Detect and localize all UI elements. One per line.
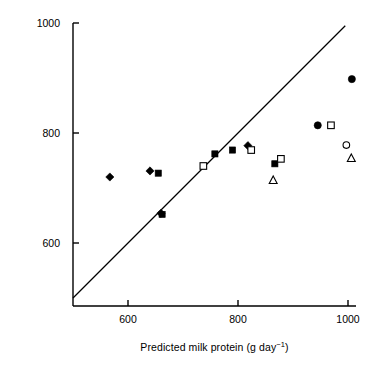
data-point-open-square xyxy=(200,163,207,170)
series-filled-circle xyxy=(314,76,355,129)
scatter-plot: Observed milk protein (g day−1) Predicte… xyxy=(0,0,380,366)
data-point-filled-square xyxy=(212,151,218,157)
data-point-open-square xyxy=(328,122,335,129)
data-point-filled-circle xyxy=(314,122,321,129)
data-markers-layer xyxy=(106,76,356,218)
series-open-circle xyxy=(343,142,350,149)
plot-canvas xyxy=(0,0,380,366)
data-point-filled-circle xyxy=(348,76,355,83)
identity-line xyxy=(73,26,345,298)
data-point-filled-square xyxy=(155,170,161,176)
series-filled-square xyxy=(155,147,278,218)
data-point-open-square xyxy=(278,156,285,163)
data-point-filled-square xyxy=(159,211,165,217)
data-point-filled-square xyxy=(272,161,278,167)
data-point-open-circle xyxy=(343,142,350,149)
data-point-open-square xyxy=(248,147,255,154)
data-point-open-triangle xyxy=(269,176,277,184)
data-point-open-triangle xyxy=(347,154,355,162)
series-open-square xyxy=(200,122,334,169)
data-point-filled-square xyxy=(229,147,235,153)
data-point-filled-diamond xyxy=(146,167,154,175)
data-point-filled-diamond xyxy=(106,173,114,181)
